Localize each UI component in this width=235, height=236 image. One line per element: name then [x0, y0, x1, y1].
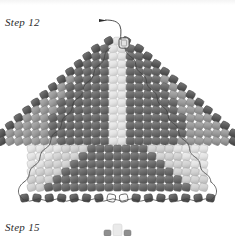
bead-light: [79, 145, 88, 153]
bead-dark: [160, 137, 170, 146]
bead-dark: [83, 121, 92, 130]
bead-pale: [117, 60, 126, 68]
bead-dark: [79, 152, 88, 160]
bead-dark: [100, 114, 109, 122]
bead-dark: [122, 153, 130, 161]
bead-dark: [168, 105, 178, 115]
bead-pale: [53, 144, 62, 153]
bead-dark: [83, 98, 92, 107]
bead-mid: [13, 136, 24, 146]
bead-light: [190, 175, 199, 184]
bead-pale: [118, 130, 126, 138]
bead-pale: [109, 52, 118, 60]
bead-dark: [143, 98, 152, 107]
bead-dark: [134, 106, 143, 115]
bead-dark: [143, 114, 152, 123]
bead-dark: [168, 113, 178, 123]
bead-light: [147, 145, 156, 153]
bead-pale: [118, 106, 126, 114]
bead-dark: [126, 122, 135, 130]
bead-dark: [100, 75, 109, 83]
bead-light: [182, 160, 191, 169]
bead-pale: [118, 99, 126, 107]
bead-mid: [22, 136, 32, 146]
bead-light: [156, 152, 165, 160]
bead-bottom-edge: [69, 194, 78, 203]
bead-pale: [35, 144, 44, 153]
bead-dark: [135, 114, 144, 122]
bead-pale: [109, 91, 117, 99]
bead-dark: [96, 153, 105, 161]
bead-pale: [118, 114, 126, 122]
bead-dark: [82, 67, 92, 77]
bead-dark: [160, 129, 170, 138]
bead-light: [182, 167, 191, 176]
bead-light: [199, 175, 209, 184]
bead-pale: [109, 45, 118, 53]
bead-dark: [134, 83, 143, 92]
bead-dark: [126, 75, 135, 83]
bead-dark: [139, 168, 148, 176]
bead-mid: [211, 136, 222, 146]
bead-dark: [139, 183, 148, 191]
bead-dark: [100, 67, 109, 76]
bead-edge: [228, 136, 235, 147]
bead-mid: [39, 129, 49, 139]
bead-dark: [152, 137, 161, 146]
bead-light: [27, 175, 37, 184]
bead-dark: [165, 168, 174, 177]
bead-pale: [118, 68, 127, 76]
bead-dark: [100, 106, 109, 114]
bead-dark: [74, 82, 84, 92]
bead-dark: [100, 137, 109, 145]
bead-open-white: [107, 194, 116, 203]
bead-light: [44, 160, 53, 169]
bead-dark: [168, 121, 178, 130]
bead-dark: [113, 176, 121, 184]
bead-dark: [105, 176, 113, 184]
bead-dark: [147, 152, 156, 160]
bead-light: [190, 167, 199, 176]
beadwork-diagram: [0, 0, 235, 236]
bead-dark: [160, 90, 170, 100]
bead-dark: [65, 90, 75, 100]
bead-dark: [87, 160, 96, 168]
bead-light: [53, 160, 62, 169]
bead-pale: [199, 152, 209, 161]
bead-dark: [61, 183, 70, 192]
bead-light: [70, 145, 79, 153]
bead-dark: [143, 121, 152, 130]
bead-dark: [152, 129, 161, 138]
bead-light: [35, 175, 44, 184]
bead-light: [173, 168, 182, 177]
bead-light: [165, 145, 174, 154]
bead-light: [44, 175, 53, 184]
bead-dark: [92, 129, 101, 137]
bead-dark: [126, 60, 135, 69]
bead-dark: [61, 175, 70, 184]
thread-direction-arrow: [99, 19, 107, 22]
bead-dark: [156, 175, 165, 183]
next-step-partial-bead: [104, 224, 131, 236]
bead-light: [61, 160, 70, 169]
bead-dark: [134, 98, 143, 107]
bead-dark: [147, 175, 156, 183]
beadwork-svg-canvas: [0, 0, 235, 236]
bead-dark: [113, 160, 121, 168]
bead-dark: [130, 153, 139, 161]
bead-dark: [122, 168, 130, 176]
bead-dark: [48, 129, 58, 139]
bead-dark: [126, 83, 135, 91]
bead-dark: [177, 113, 187, 123]
bead-pale: [109, 60, 118, 68]
bead-dark: [173, 183, 182, 192]
bead-dark: [130, 176, 139, 184]
bead-dark: [113, 168, 121, 176]
bead-dark: [96, 145, 105, 153]
bead-bottom-edge: [144, 194, 153, 203]
bead-dark: [74, 129, 83, 138]
bead-dark: [57, 105, 67, 115]
bead-dark: [79, 183, 88, 191]
bead-mid: [186, 129, 196, 139]
bead-pale: [182, 152, 191, 161]
